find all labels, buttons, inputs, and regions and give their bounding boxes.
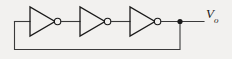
- inverter-1-triangle: [30, 7, 55, 36]
- ring-oscillator-figure: Vo: [0, 0, 232, 59]
- inverter-2-bubble-icon: [104, 18, 110, 24]
- output-voltage-label: Vo: [206, 7, 218, 24]
- inverter-1-bubble-icon: [54, 18, 60, 24]
- inverter-3-triangle: [130, 7, 155, 36]
- circuit-schematic: [0, 0, 232, 59]
- output-junction-dot: [177, 19, 182, 24]
- inverter-2-triangle: [80, 7, 105, 36]
- inverter-3-bubble-icon: [154, 18, 160, 24]
- output-voltage-subscript: o: [214, 15, 219, 25]
- output-voltage-symbol: V: [206, 6, 214, 21]
